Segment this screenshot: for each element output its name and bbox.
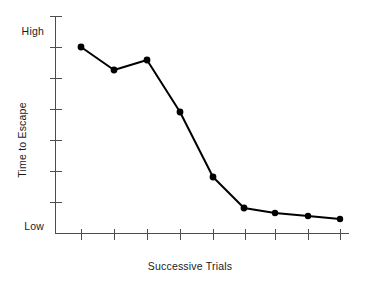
data-point-6: [241, 205, 248, 212]
data-point-2: [111, 67, 118, 74]
data-point-9: [337, 216, 343, 222]
data-point-4: [177, 109, 184, 116]
y-axis-title: Time to Escape: [16, 102, 28, 177]
data-point-5: [210, 174, 217, 181]
series-markers: [78, 44, 344, 223]
line-chart-plot: High Low Time to Escape Successive Trial…: [0, 0, 373, 285]
y-tick-label-high: High: [22, 25, 44, 37]
x-axis-title: Successive Trials: [148, 260, 233, 272]
series-line-time-to-escape: [81, 47, 340, 219]
data-point-8: [305, 213, 311, 219]
data-point-1: [78, 44, 85, 51]
chart-container: High Low Time to Escape Successive Trial…: [0, 0, 373, 285]
data-point-3: [144, 57, 151, 64]
y-tick-label-low: Low: [24, 220, 44, 232]
data-point-7: [272, 210, 278, 216]
